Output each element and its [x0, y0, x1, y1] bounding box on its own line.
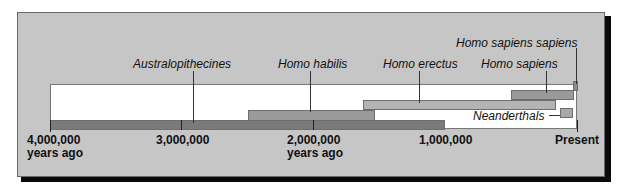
axis-label-2m-sub: years ago	[287, 147, 343, 160]
label-homo-habilis: Homo habilis	[278, 57, 347, 71]
leader-neanderthals	[549, 115, 560, 116]
bar-australopithecines	[50, 120, 445, 130]
tick-present	[577, 120, 578, 132]
axis-label-2m: 2,000,000 years ago	[287, 134, 343, 160]
leader-australopithecines	[193, 71, 194, 123]
axis-label-3m: 3,000,000	[156, 134, 209, 147]
axis-label-present: Present	[555, 134, 599, 147]
label-australopithecines: Australopithecines	[133, 57, 231, 71]
label-homo-sapiens-sapiens: Homo sapiens sapiens	[456, 36, 577, 50]
bar-neanderthals	[560, 108, 573, 118]
leader-homo-sapiens	[546, 71, 547, 93]
tick-4m	[50, 120, 51, 132]
axis-label-4m: 4,000,000 years ago	[27, 134, 83, 160]
tick-2m	[313, 120, 314, 130]
leader-homo-sapiens-sapiens	[576, 48, 577, 84]
leader-homo-habilis	[310, 71, 311, 112]
bar-homo-sapiens	[511, 90, 574, 100]
leader-homo-erectus	[419, 71, 420, 103]
bar-homo-habilis	[248, 110, 375, 121]
label-homo-sapiens: Homo sapiens	[481, 57, 558, 71]
tick-3m	[181, 120, 182, 130]
axis-label-4m-sub: years ago	[27, 147, 83, 160]
axis-label-1m: 1,000,000	[419, 134, 472, 147]
label-homo-erectus: Homo erectus	[383, 57, 458, 71]
label-neanderthals: Neanderthals	[473, 109, 544, 123]
